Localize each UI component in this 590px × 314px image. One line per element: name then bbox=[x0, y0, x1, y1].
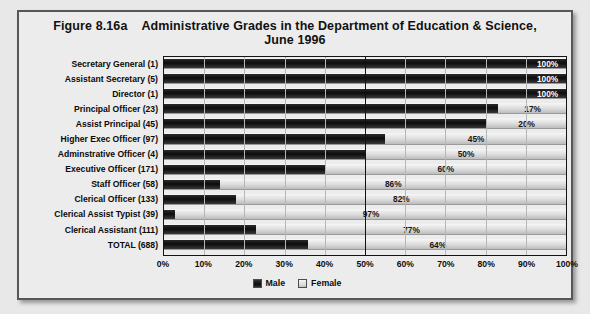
row-bar: 100% bbox=[163, 71, 567, 86]
bar-rows: Secretary General (1)100%Assistant Secre… bbox=[27, 56, 567, 256]
chart-area: Secretary General (1)100%Assistant Secre… bbox=[27, 56, 567, 294]
row-bar: 45% bbox=[163, 131, 567, 146]
row-bar: 60% bbox=[163, 162, 567, 177]
row-label: Assistant Secretary (5) bbox=[27, 74, 163, 84]
row-label: Staff Officer (58) bbox=[27, 179, 163, 189]
row-bar: 100% bbox=[163, 56, 567, 71]
bar-track bbox=[163, 194, 567, 205]
x-axis-tick-label: 50% bbox=[356, 259, 373, 269]
figure-title-text: Administrative Grades in the Department … bbox=[141, 19, 536, 33]
bar-segment-female bbox=[175, 210, 567, 219]
chart-row: Clerical Officer (133)82% bbox=[27, 192, 567, 207]
x-axis: 0%10%20%30%40%50%60%70%80%90%100% bbox=[163, 256, 567, 274]
bar-track bbox=[163, 103, 567, 114]
bar-segment-male bbox=[163, 180, 220, 189]
row-label: Clerical Officer (133) bbox=[27, 194, 163, 204]
row-bar: 82% bbox=[163, 192, 567, 207]
chart-row: Secretary General (1)100% bbox=[27, 56, 567, 71]
row-label: Secretary General (1) bbox=[27, 59, 163, 69]
chart-row: Director (1)100% bbox=[27, 86, 567, 101]
x-axis-tick-label: 90% bbox=[518, 259, 535, 269]
x-axis-tick-label: 0% bbox=[157, 259, 169, 269]
figure-number: Figure 8.16a bbox=[53, 19, 127, 33]
figure-title-block: Figure 8.16aAdministrative Grades in the… bbox=[19, 12, 571, 51]
bar-track bbox=[163, 58, 567, 69]
row-label: Adminstrative Officer (4) bbox=[27, 149, 163, 159]
chart-legend: MaleFemale bbox=[27, 278, 567, 288]
row-bar: 100% bbox=[163, 86, 567, 101]
legend-item-female: Female bbox=[298, 278, 341, 288]
legend-swatch-male bbox=[253, 279, 262, 288]
bar-segment-male bbox=[163, 119, 486, 128]
row-label: TOTAL (688) bbox=[27, 240, 163, 250]
row-bar: 86% bbox=[163, 177, 567, 192]
bar-segment-female bbox=[236, 195, 567, 204]
row-label: Principal Officer (23) bbox=[27, 104, 163, 114]
bar-track bbox=[163, 149, 567, 160]
chart-row: Staff Officer (58)86% bbox=[27, 177, 567, 192]
figure-panel: Figure 8.16aAdministrative Grades in the… bbox=[17, 10, 573, 300]
bar-segment-female bbox=[220, 180, 567, 189]
bar-segment-male bbox=[163, 240, 308, 249]
bar-segment-female bbox=[498, 104, 567, 113]
x-axis-tick-label: 30% bbox=[276, 259, 293, 269]
x-axis-tick-label: 20% bbox=[235, 259, 252, 269]
x-axis-tick-label: 40% bbox=[316, 259, 333, 269]
chart-row: Executive Officer (171)60% bbox=[27, 162, 567, 177]
bar-segment-male bbox=[163, 74, 567, 83]
legend-label: Male bbox=[266, 278, 286, 288]
row-label: Director (1) bbox=[27, 89, 163, 99]
plot-area: Secretary General (1)100%Assistant Secre… bbox=[27, 56, 567, 256]
bar-segment-male bbox=[163, 59, 567, 68]
bar-segment-male bbox=[163, 195, 236, 204]
bar-segment-male bbox=[163, 104, 498, 113]
chart-row: Assistant Secretary (5)100% bbox=[27, 71, 567, 86]
bar-track bbox=[163, 73, 567, 84]
bar-segment-male bbox=[163, 210, 175, 219]
bar-segment-male bbox=[163, 225, 256, 234]
chart-row: Assist Principal (45)20% bbox=[27, 116, 567, 131]
chart-row: TOTAL (688)64% bbox=[27, 237, 567, 252]
bar-track bbox=[163, 118, 567, 129]
x-axis-tick-label: 10% bbox=[195, 259, 212, 269]
bar-segment-female bbox=[486, 119, 567, 128]
row-bar: 50% bbox=[163, 147, 567, 162]
bar-segment-female bbox=[385, 134, 567, 143]
row-label: Higher Exec Officer (97) bbox=[27, 134, 163, 144]
legend-item-male: Male bbox=[253, 278, 286, 288]
bar-track bbox=[163, 164, 567, 175]
bar-track bbox=[163, 209, 567, 220]
row-bar: 17% bbox=[163, 101, 567, 116]
bar-segment-female bbox=[325, 165, 567, 174]
row-bar: 20% bbox=[163, 116, 567, 131]
chart-row: Adminstrative Officer (4)50% bbox=[27, 147, 567, 162]
figure-title-line-2: June 1996 bbox=[29, 33, 561, 47]
bar-segment-male bbox=[163, 150, 365, 159]
bar-segment-female bbox=[365, 150, 567, 159]
x-axis-tick-label: 70% bbox=[437, 259, 454, 269]
bar-track bbox=[163, 88, 567, 99]
bar-track bbox=[163, 224, 567, 235]
row-bar: 64% bbox=[163, 237, 567, 252]
row-label: Executive Officer (171) bbox=[27, 164, 163, 174]
row-label: Clerical Assistant (111) bbox=[27, 225, 163, 235]
x-axis-tick-label: 80% bbox=[478, 259, 495, 269]
chart-row: Clerical Assist Typist (39)97% bbox=[27, 207, 567, 222]
bar-track bbox=[163, 239, 567, 250]
bar-track bbox=[163, 179, 567, 190]
bar-segment-male bbox=[163, 165, 325, 174]
chart-row: Clerical Assistant (111)77% bbox=[27, 222, 567, 237]
row-label: Assist Principal (45) bbox=[27, 119, 163, 129]
bar-segment-male bbox=[163, 134, 385, 143]
bar-segment-female bbox=[256, 225, 567, 234]
row-label: Clerical Assist Typist (39) bbox=[27, 209, 163, 219]
row-bar: 97% bbox=[163, 207, 567, 222]
x-axis-tick-label: 60% bbox=[397, 259, 414, 269]
figure-title-line-1: Figure 8.16aAdministrative Grades in the… bbox=[29, 19, 561, 33]
legend-label: Female bbox=[311, 278, 341, 288]
legend-swatch-female bbox=[298, 279, 307, 288]
x-axis-tick-label: 100% bbox=[556, 259, 578, 269]
bar-segment-male bbox=[163, 89, 567, 98]
chart-row: Higher Exec Officer (97)45% bbox=[27, 131, 567, 146]
row-bar: 77% bbox=[163, 222, 567, 237]
